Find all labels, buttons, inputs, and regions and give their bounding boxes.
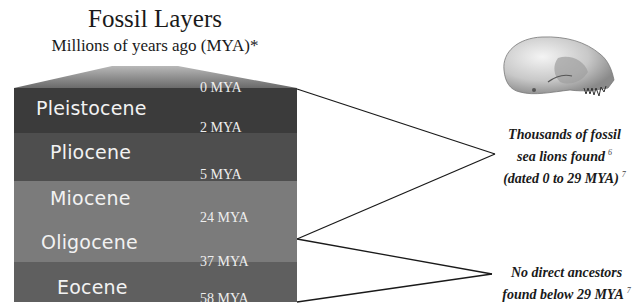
mya-label-2: 2 MYA [200, 120, 242, 136]
connector-line [297, 239, 492, 274]
connector-line [297, 89, 495, 154]
no-ancestors-note: No direct ancestors found below 29 MYA7 [490, 264, 643, 304]
sea-lion-skull-icon [500, 30, 620, 100]
strata-top-trapezoid [14, 66, 297, 88]
reference-superscript: 6 [608, 148, 612, 157]
mya-label-0: 0 MYA [200, 80, 242, 96]
epoch-label-pleistocene: Pleistocene [36, 97, 147, 119]
epoch-label-miocene: Miocene [50, 187, 131, 209]
connector-line [297, 274, 492, 302]
mya-label-37: 37 MYA [200, 254, 249, 270]
reference-superscript: 7 [622, 170, 626, 179]
connector-line [297, 154, 495, 239]
note-line: No direct ancestors [511, 265, 622, 280]
reference-superscript: 7 [627, 286, 631, 295]
note-line: sea lions found [517, 149, 605, 164]
note-line: (dated 0 to 29 MYA) [503, 171, 619, 186]
mya-label-5: 5 MYA [200, 167, 242, 183]
mya-label-58: 58 MYA [200, 291, 249, 302]
note-line: Thousands of fossil [508, 127, 621, 142]
mya-label-24: 24 MYA [200, 210, 249, 226]
epoch-label-eocene: Eocene [57, 276, 128, 298]
epoch-label-pliocene: Pliocene [50, 141, 131, 163]
epoch-label-oligocene: Oligocene [41, 231, 138, 253]
note-line: found below 29 MYA [502, 287, 623, 302]
fossils-found-note: Thousands of fossil sea lions found6 (da… [486, 126, 643, 188]
